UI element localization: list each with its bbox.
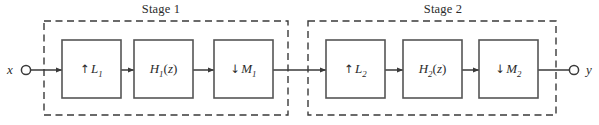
down-arrow-icon: ↓ bbox=[231, 62, 242, 76]
input-signal-label: x bbox=[7, 62, 13, 78]
upsampler-1-subscript: 1 bbox=[98, 69, 102, 79]
downsampler-1-subscript: 1 bbox=[252, 69, 256, 79]
block-diagram-figure: Stage 1 Stage 2 x y ↑L1 H1(z) ↓M1 ↑L2 H2… bbox=[0, 0, 599, 125]
block-label-downsampler-2: ↓M2 bbox=[496, 61, 522, 79]
output-signal-label: y bbox=[586, 62, 592, 78]
downsampler-1-symbol: M bbox=[241, 61, 252, 76]
block-label-filter-1: H1(z) bbox=[150, 61, 178, 79]
filter-2-symbol: H bbox=[419, 61, 428, 76]
upsampler-1-symbol: L bbox=[91, 61, 98, 76]
block-label-downsampler-1: ↓M1 bbox=[231, 61, 257, 79]
block-label-upsampler-1: ↑L1 bbox=[80, 61, 102, 79]
up-arrow-icon: ↑ bbox=[80, 62, 91, 76]
down-arrow-icon: ↓ bbox=[496, 62, 507, 76]
upsampler-2-subscript: 2 bbox=[362, 69, 366, 79]
stage-2-title: Stage 2 bbox=[424, 2, 463, 17]
input-terminal-circle bbox=[21, 65, 30, 74]
downsampler-2-symbol: M bbox=[506, 61, 517, 76]
filter-1-symbol: H bbox=[150, 61, 159, 76]
block-label-filter-2: H2(z) bbox=[419, 61, 447, 79]
upsampler-2-symbol: L bbox=[355, 61, 362, 76]
filter-1-suffix: (z) bbox=[164, 61, 178, 76]
output-terminal-circle bbox=[569, 65, 578, 74]
downsampler-2-subscript: 2 bbox=[517, 69, 521, 79]
up-arrow-icon: ↑ bbox=[344, 62, 355, 76]
block-label-upsampler-2: ↑L2 bbox=[344, 61, 366, 79]
filter-2-suffix: (z) bbox=[433, 61, 447, 76]
stage-1-title: Stage 1 bbox=[142, 2, 181, 17]
